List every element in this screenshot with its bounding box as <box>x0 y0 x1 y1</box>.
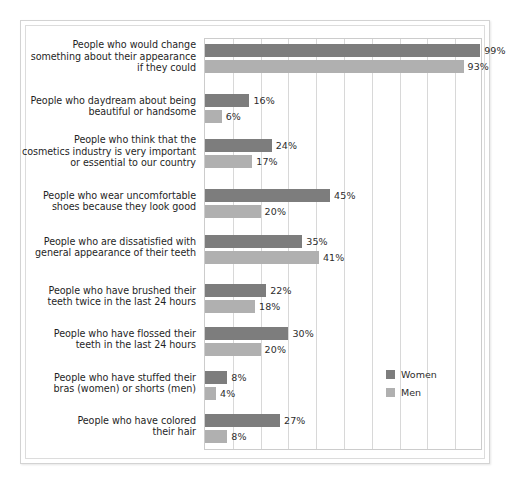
category-label-line: People who have colored <box>10 415 196 427</box>
bar-value-label: 6% <box>226 110 241 123</box>
bar-group: 35%41% <box>205 235 481 264</box>
bar-women <box>205 44 480 57</box>
category-label-line: People who would change <box>10 39 196 51</box>
category-label-line: their hair <box>10 426 196 438</box>
legend-entry-men[interactable]: Men <box>386 385 437 399</box>
legend-label: Women <box>401 369 437 380</box>
category-label-line: People who have brushed their <box>10 285 196 297</box>
bar-value-label: 16% <box>253 94 274 107</box>
bar-value-label: 93% <box>468 60 489 73</box>
category-label-line: if they could <box>10 62 196 74</box>
category-label: People who wear uncomfortableshoes becau… <box>10 190 196 213</box>
chart-legend: WomenMen <box>386 367 437 403</box>
bar-women <box>205 371 227 384</box>
bar-women <box>205 284 266 297</box>
category-label-line: teeth twice in the last 24 hours <box>10 296 196 308</box>
category-label: People who have coloredtheir hair <box>10 415 196 438</box>
bar-group: 30%20% <box>205 327 481 356</box>
bar-group: 99%93% <box>205 44 481 73</box>
bar-men <box>205 387 216 400</box>
category-label-line: People who wear uncomfortable <box>10 190 196 202</box>
bar-value-label: 27% <box>284 414 305 427</box>
bar-women <box>205 139 272 152</box>
bar-men <box>205 343 261 356</box>
category-label: People who have brushed theirteeth twice… <box>10 285 196 308</box>
category-label: People who think that thecosmetics indus… <box>10 134 196 169</box>
bar-men <box>205 205 261 218</box>
category-label-line: People who have flossed their <box>10 328 196 340</box>
legend-entry-women[interactable]: Women <box>386 367 437 381</box>
category-label-line: People who are dissatisfied with <box>10 236 196 248</box>
bar-value-label: 18% <box>259 300 280 313</box>
bar-value-label: 45% <box>334 189 355 202</box>
bar-value-label: 8% <box>231 371 246 384</box>
category-label-line: teeth in the last 24 hours <box>10 339 196 351</box>
bar-group: 16%6% <box>205 94 481 123</box>
bar-men <box>205 300 255 313</box>
bar-value-label: 22% <box>270 284 291 297</box>
category-label: People who have stuffed theirbras (women… <box>10 372 196 395</box>
category-label: People who daydream about beingbeautiful… <box>10 95 196 118</box>
bar-men <box>205 430 227 443</box>
category-label: People who are dissatisfied withgeneral … <box>10 236 196 259</box>
category-label: People who would changesomething about t… <box>10 39 196 74</box>
bar-value-label: 99% <box>484 44 505 57</box>
category-label-line: shoes because they look good <box>10 201 196 213</box>
bar-value-label: 35% <box>306 235 327 248</box>
bar-women <box>205 414 280 427</box>
category-label-line: general appearance of their teeth <box>10 247 196 259</box>
bar-value-label: 8% <box>231 430 246 443</box>
bar-women <box>205 235 302 248</box>
plot-area: 99%93%16%6%24%17%45%20%35%41%22%18%30%20… <box>204 38 482 450</box>
category-label-line: something about their appearance <box>10 51 196 63</box>
bar-group: 24%17% <box>205 139 481 168</box>
bar-group: 8%4% <box>205 371 481 400</box>
bar-men <box>205 251 319 264</box>
bar-value-label: 24% <box>276 139 297 152</box>
legend-label: Men <box>401 387 421 398</box>
bar-value-label: 20% <box>265 343 286 356</box>
bar-men <box>205 110 222 123</box>
category-label: People who have flossed theirteeth in th… <box>10 328 196 351</box>
bar-value-label: 20% <box>265 205 286 218</box>
category-label-line: People who think that the <box>10 134 196 146</box>
bar-value-label: 4% <box>220 387 235 400</box>
bar-group: 45%20% <box>205 189 481 218</box>
category-label-line: People who have stuffed their <box>10 372 196 384</box>
bar-women <box>205 327 288 340</box>
bar-value-label: 17% <box>256 155 277 168</box>
category-label-line: cosmetics industry is very important <box>10 146 196 158</box>
bar-value-label: 30% <box>292 327 313 340</box>
bar-women <box>205 94 249 107</box>
category-label-line: bras (women) or shorts (men) <box>10 383 196 395</box>
category-label-line: beautiful or handsome <box>10 106 196 118</box>
bar-group: 27%8% <box>205 414 481 443</box>
category-label-line: or essential to our country <box>10 157 196 169</box>
bar-women <box>205 189 330 202</box>
legend-swatch-icon <box>386 370 395 379</box>
category-label-line: People who daydream about being <box>10 95 196 107</box>
bar-value-label: 41% <box>323 251 344 264</box>
bar-group: 22%18% <box>205 284 481 313</box>
bar-men <box>205 155 252 168</box>
bar-men <box>205 60 464 73</box>
legend-swatch-icon <box>386 388 395 397</box>
